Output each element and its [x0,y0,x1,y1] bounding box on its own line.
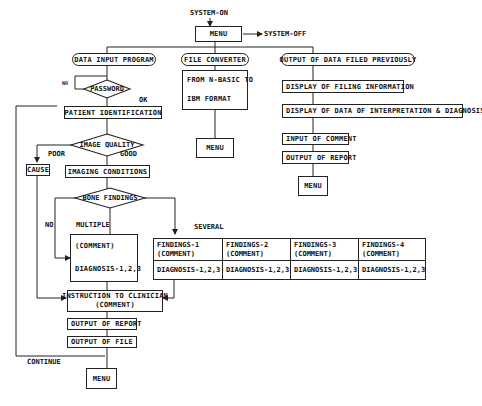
multiple-findings-box[interactable]: (COMMENT) DIAGNOSIS-1,2,3 [70,234,138,282]
bone-findings-label: BONE FINDINGS [83,194,138,202]
output-of-report-prev-box[interactable]: OUTPUT OF REPORT [282,151,349,164]
findings-4-diagnosis[interactable]: DIAGNOSIS-1,2,3 [359,261,425,279]
multiple-label: MULTIPLE [76,221,110,229]
display-interpretation-box[interactable]: DISPLAY OF DATA OF INTERPRETATION & DIAG… [282,104,463,118]
findings-2-diagnosis[interactable]: DIAGNOSIS-1,2,3 [223,261,291,279]
image-quality-label: IMAGE QUALITY [80,141,135,149]
data-input-menu-box[interactable]: MENU [86,368,117,389]
converter-line1: FROM N-BASIC TO [187,76,253,85]
converter-line2: IBM FORMAT [187,95,231,104]
findings-3-header[interactable]: FINDINGS-3 (COMMENT) [291,239,359,261]
file-converter-menu-box[interactable]: MENU [196,138,234,158]
findings-1-diagnosis[interactable]: DIAGNOSIS-1,2,3 [154,261,223,279]
several-label: SEVERAL [194,223,224,231]
findings-3-diagnosis[interactable]: DIAGNOSIS-1,2,3 [291,261,359,279]
output-previous-menu-box[interactable]: MENU [298,176,328,196]
top-menu-box[interactable]: MENU [195,26,242,42]
output-of-file-box[interactable]: OUTPUT OF FILE [67,336,137,348]
password-no-label: NO [62,80,68,86]
instruction-to-clinician-box[interactable]: INSTRUCTION TO CLINICIAN (COMMENT) [67,290,163,312]
findings-1-header[interactable]: FINDINGS-1 (COMMENT) [154,239,223,261]
imaging-conditions-box[interactable]: IMAGING CONDITIONS [65,165,150,178]
continue-label: CONTINUE [27,358,61,366]
bone-no-label: NO [45,221,53,229]
cause-box[interactable]: CAUSE [26,164,50,176]
system-off-label: SYSTEM-OFF [264,30,306,38]
file-converter[interactable]: FILE CONVERTER [181,53,249,66]
password-ok-label: OK [139,96,147,104]
output-of-report-box[interactable]: OUTPUT OF REPORT [67,318,137,330]
password-label: PASSWORD [90,85,124,93]
multiple-diagnosis: DIAGNOSIS-1,2,3 [75,265,141,274]
findings-table: FINDINGS-1 (COMMENT) FINDINGS-2 (COMMENT… [153,238,426,280]
system-on-label: SYSTEM-ON [190,9,228,17]
n-basic-to-ibm-box[interactable]: FROM N-BASIC TO IBM FORMAT [182,70,248,110]
good-label: GOOD [120,150,137,158]
display-filing-info-box[interactable]: DISPLAY OF FILING INFORMATION [282,80,404,93]
output-data-filed-previously[interactable]: OUTPUT OF DATA FILED PREVIOUSLY [281,53,415,66]
poor-label: POOR [48,150,65,158]
data-input-program[interactable]: DATA INPUT PROGRAM [72,53,156,66]
findings-2-header[interactable]: FINDINGS-2 (COMMENT) [223,239,291,261]
patient-identification-box[interactable]: PATIENT IDENTIFICATION [64,106,162,119]
findings-4-header[interactable]: FINDINGS-4 (COMMENT) [359,239,425,261]
multiple-comment: (COMMENT) [75,242,115,251]
input-of-comment-box[interactable]: INPUT OF COMMENT [282,133,349,145]
